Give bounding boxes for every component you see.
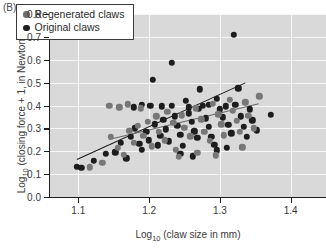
x-tick-mark [149,198,150,203]
y-axis-line [49,14,50,198]
x-axis-label-subscript: 10 [152,234,160,243]
data-point [244,133,250,139]
y-axis-label-suffix: (closing force + 1, in Newtons) [16,31,27,169]
y-tick-label: 0.6 [27,54,41,65]
x-tick-label: 1.4 [284,205,298,216]
x-axis-line [49,197,326,198]
x-tick-mark [291,198,292,203]
y-tick-mark [44,106,49,107]
data-point [159,103,165,109]
data-point [164,109,170,115]
data-point [86,164,92,170]
data-point [249,117,255,123]
y-tick-label: 0.3 [27,123,41,134]
y-tick-mark [44,83,49,84]
x-axis-label-prefix: Log [135,229,152,240]
x-tick-label: 1.2 [142,205,156,216]
data-point [160,116,166,122]
data-point [186,104,192,110]
data-point [99,159,105,165]
data-point [163,126,169,132]
data-point [176,154,182,160]
data-point [235,85,241,91]
legend-label-original: Original claws [35,21,100,34]
data-point [194,150,200,156]
data-point [222,103,228,109]
data-point [256,93,262,99]
y-tick-mark [44,174,49,175]
data-point [197,86,203,92]
figure-panel-b: (B) Log10 (closing force + 1, in Newtons… [0,0,326,248]
data-point [236,128,242,134]
x-tick-label: 1.1 [71,205,85,216]
data-point [234,118,240,124]
data-point [239,144,245,150]
y-tick-label: 0.8 [27,9,41,20]
data-point [225,122,231,128]
data-point [218,121,224,127]
data-point [186,110,192,116]
panel-label: (B) [3,2,16,13]
data-point [137,105,143,111]
data-point [153,113,159,119]
data-point [147,103,153,109]
data-point [130,104,136,110]
x-axis-label: Log10 (claw size in mm) [50,229,326,243]
y-tick-label: 0.7 [27,31,41,42]
data-point [181,125,187,131]
y-axis-label-prefix: Log [16,177,27,194]
x-axis-label-suffix: (claw size in mm) [161,229,241,240]
data-point [106,103,112,109]
data-point [224,144,230,150]
y-tick-mark [44,14,49,15]
x-tick-label: 1.3 [213,205,227,216]
x-tick-mark [78,198,79,203]
gridline-horizontal [50,60,326,61]
y-tick-mark [44,151,49,152]
data-point [212,152,218,158]
data-point [78,165,84,171]
y-tick-label: 0.0 [27,192,41,203]
y-tick-mark [44,197,49,198]
data-point [229,107,235,113]
data-point [268,111,274,117]
data-point [178,112,184,118]
y-tick-label: 0.4 [27,100,41,111]
data-point [169,59,175,65]
x-tick-mark [220,198,221,203]
data-point [177,132,183,138]
gridline-horizontal [50,83,326,84]
data-point [149,143,155,149]
plot-area [50,14,326,197]
gridline-horizontal [50,174,326,175]
data-point [221,132,227,138]
y-tick-label: 0.2 [27,146,41,157]
y-tick-label: 0.5 [27,77,41,88]
data-point [154,142,160,148]
data-point [116,104,122,110]
data-point [198,116,204,122]
y-tick-mark [44,128,49,129]
data-point [228,130,234,136]
gridline-horizontal [50,128,326,129]
y-tick-mark [44,37,49,38]
data-point [187,133,193,139]
data-point [169,102,175,108]
y-tick-mark [44,60,49,61]
y-tick-label: 0.1 [27,169,41,180]
data-point [188,118,194,124]
data-point [180,143,186,149]
data-point [91,158,97,164]
data-point [194,135,200,141]
data-point [103,150,109,156]
data-point [201,128,207,134]
